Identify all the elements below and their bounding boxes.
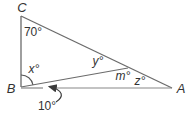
vertex-label-B: B <box>7 82 16 95</box>
angle-label-x: x° <box>29 63 40 75</box>
angle-label-10: 10° <box>38 100 56 112</box>
vertex-label-A: A <box>177 82 186 95</box>
geometry-figure: C B A 70° x° y° m° z° 10° <box>0 0 188 114</box>
side-CA-line <box>21 16 172 88</box>
angle-label-m: m° <box>116 70 131 82</box>
vertex-label-C: C <box>17 1 26 14</box>
angle-label-z: z° <box>135 75 146 87</box>
angle-label-70: 70° <box>24 26 42 38</box>
angle-arc-at-B <box>21 75 33 85</box>
angle-label-y: y° <box>93 55 104 67</box>
